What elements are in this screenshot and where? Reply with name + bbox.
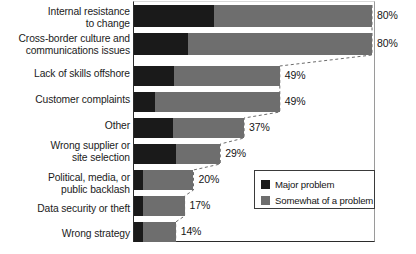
bar-data-security-or xyxy=(134,196,185,216)
stacked-bar-chart: Internal resistance to change Cross-bord… xyxy=(0,0,416,254)
bar-other xyxy=(134,118,244,138)
somewhat-problem-swatch xyxy=(261,196,270,205)
category-label-cross-border-culture: Cross-border culture and communications … xyxy=(19,33,131,56)
bar-segment-major-lack-of-skills xyxy=(134,66,174,86)
legend-item-somewhat-problem: Somewhat of a problem xyxy=(261,192,374,208)
bar-segment-major-internal-resistance-to xyxy=(134,5,214,27)
category-label-other: Other xyxy=(105,120,130,132)
bar-internal-resistance-to xyxy=(134,5,372,27)
legend-label-major-problem: Major problem xyxy=(275,179,334,190)
value-label-wrong-supplier-or: 29% xyxy=(225,147,246,159)
category-label-wrong-strategy: Wrong strategy xyxy=(62,228,130,240)
bar-segment-major-wrong-supplier-or xyxy=(134,144,176,164)
bar-lack-of-skills xyxy=(134,66,280,86)
value-label-customer-complaints: 49% xyxy=(285,95,306,107)
bar-segment-somewhat-wrong-supplier-or xyxy=(176,144,221,164)
bar-segment-somewhat-lack-of-skills xyxy=(174,66,280,86)
value-label-internal-resistance-to: 80% xyxy=(377,9,398,21)
bar-political-media-or xyxy=(134,170,194,190)
bar-cross-border-culture xyxy=(134,33,372,55)
value-label-lack-of-skills: 49% xyxy=(285,69,306,81)
bar-segment-somewhat-wrong-strategy xyxy=(143,222,176,242)
major-problem-swatch xyxy=(261,180,270,189)
bar-segment-major-other xyxy=(134,118,173,138)
bar-segment-major-cross-border-culture xyxy=(134,33,188,55)
bar-customer-complaints xyxy=(134,92,280,112)
category-label-lack-of-skills: Lack of skills offshore xyxy=(34,68,130,80)
bar-segment-major-political-media-or xyxy=(134,170,143,190)
legend-item-major-problem: Major problem xyxy=(261,176,374,192)
category-label-customer-complaints: Customer complaints xyxy=(35,94,130,106)
bar-segment-major-data-security-or xyxy=(134,196,143,216)
bar-segment-somewhat-cross-border-culture xyxy=(188,33,372,55)
legend-label-somewhat-problem: Somewhat of a problem xyxy=(275,195,373,206)
value-label-cross-border-culture: 80% xyxy=(377,37,398,49)
bar-segment-somewhat-political-media-or xyxy=(143,170,194,190)
value-label-wrong-strategy: 14% xyxy=(181,225,202,237)
value-label-other: 37% xyxy=(249,121,270,133)
bar-segment-somewhat-internal-resistance-to xyxy=(214,5,372,27)
bar-segment-somewhat-customer-complaints xyxy=(155,92,280,112)
bar-segment-somewhat-data-security-or xyxy=(143,196,185,216)
chart-legend: Major problem Somewhat of a problem xyxy=(254,170,375,209)
bar-segment-major-customer-complaints xyxy=(134,92,155,112)
category-label-political-media: Political, media, or public backlash xyxy=(48,172,130,195)
category-label-internal-resistance: Internal resistance to change xyxy=(48,6,130,29)
bar-wrong-strategy xyxy=(134,222,176,242)
bar-segment-somewhat-other xyxy=(173,118,244,138)
value-label-political-media-or: 20% xyxy=(199,173,220,185)
bar-wrong-supplier-or xyxy=(134,144,220,164)
bar-segment-major-wrong-strategy xyxy=(134,222,143,242)
category-label-data-security: Data security or theft xyxy=(37,203,130,215)
category-label-wrong-supplier: Wrong supplier or site selection xyxy=(51,140,130,163)
value-label-data-security-or: 17% xyxy=(190,199,211,211)
